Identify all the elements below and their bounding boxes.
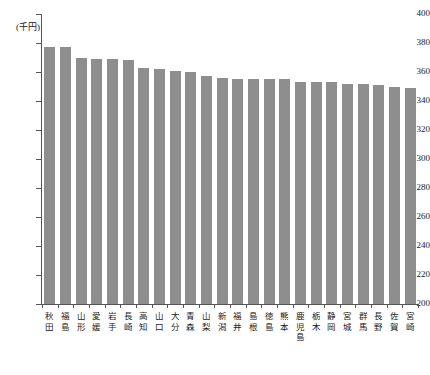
- bar: [279, 79, 290, 304]
- bar: [154, 69, 165, 304]
- y-tick-mark: [36, 130, 41, 131]
- y-tick-mark: [36, 72, 41, 73]
- x-category-label: 宮城: [340, 311, 356, 332]
- bar: [201, 76, 212, 304]
- x-category-label: 福島: [58, 311, 74, 332]
- bar-slot: [120, 14, 136, 304]
- y-tick-mark: [36, 246, 41, 247]
- x-tick-mark: [58, 304, 59, 308]
- x-category-label: 長野: [371, 311, 387, 332]
- y-tick-mark: [36, 275, 41, 276]
- bar-slot: [136, 14, 152, 304]
- x-tick-mark: [136, 304, 137, 308]
- bar-slot: [371, 14, 387, 304]
- x-category-label: 岩手: [105, 311, 121, 332]
- y-tick-mark: [36, 304, 41, 305]
- x-category-label: 鹿児島: [293, 311, 309, 343]
- x-tick-mark: [167, 304, 168, 308]
- bar: [248, 79, 259, 304]
- x-tick-mark: [418, 304, 419, 308]
- bar-slot: [183, 14, 199, 304]
- bar: [232, 79, 243, 304]
- x-category-label: 山梨: [199, 311, 215, 332]
- bar: [138, 68, 149, 304]
- bar: [185, 72, 196, 304]
- x-category-label: 群馬: [355, 311, 371, 332]
- x-tick-mark: [89, 304, 90, 308]
- bar-slot: [89, 14, 105, 304]
- x-tick-mark: [246, 304, 247, 308]
- x-category-label: 大分: [167, 311, 183, 332]
- y-tick-mark: [36, 14, 41, 15]
- x-tick-mark: [230, 304, 231, 308]
- bar: [311, 82, 322, 304]
- bar: [44, 47, 55, 304]
- bar-chart: (千円) 400380360340320300280260240220200 秋…: [0, 0, 430, 375]
- x-tick-mark: [73, 304, 74, 308]
- bar-slot: [214, 14, 230, 304]
- y-tick-mark: [36, 188, 41, 189]
- bar: [326, 82, 337, 304]
- bar-slot: [387, 14, 403, 304]
- x-category-label: 佐賀: [387, 311, 403, 332]
- x-tick-mark: [152, 304, 153, 308]
- x-category-label: 徳島: [261, 311, 277, 332]
- bar: [107, 59, 118, 304]
- bar: [264, 79, 275, 304]
- x-tick-mark: [183, 304, 184, 308]
- bar: [123, 60, 134, 304]
- bar-slot: [152, 14, 168, 304]
- x-category-label: 山形: [73, 311, 89, 332]
- y-tick-mark: [36, 43, 41, 44]
- bar-slot: [293, 14, 309, 304]
- x-category-label: 熊本: [277, 311, 293, 332]
- x-tick-mark: [308, 304, 309, 308]
- y-tick-mark: [36, 101, 41, 102]
- x-category-label: 宮崎: [402, 311, 418, 332]
- y-tick-mark: [36, 159, 41, 160]
- x-category-label: 福井: [230, 311, 246, 332]
- bar: [60, 47, 71, 304]
- bar: [389, 87, 400, 305]
- bar-slot: [402, 14, 418, 304]
- bar: [358, 84, 369, 304]
- x-category-label: 新潟: [214, 311, 230, 332]
- y-axis-unit-label: (千円): [2, 22, 40, 32]
- y-tick-mark: [36, 217, 41, 218]
- bar-slot: [105, 14, 121, 304]
- x-category-label: 高知: [136, 311, 152, 332]
- plot-area: [42, 14, 418, 304]
- bar: [217, 78, 228, 304]
- bar-slot: [42, 14, 58, 304]
- bar-slot: [277, 14, 293, 304]
- bar: [405, 88, 416, 304]
- bar: [76, 58, 87, 305]
- bar: [342, 84, 353, 304]
- x-tick-mark: [355, 304, 356, 308]
- bar-slot: [58, 14, 74, 304]
- x-tick-mark: [340, 304, 341, 308]
- x-tick-mark: [387, 304, 388, 308]
- bar-slot: [308, 14, 324, 304]
- x-tick-mark: [402, 304, 403, 308]
- x-tick-mark: [120, 304, 121, 308]
- x-category-label: 青森: [183, 311, 199, 332]
- bar-slot: [246, 14, 262, 304]
- bar: [91, 59, 102, 304]
- x-category-label: 長崎: [120, 311, 136, 332]
- bar-slot: [340, 14, 356, 304]
- bar: [295, 82, 306, 304]
- x-tick-mark: [105, 304, 106, 308]
- bar: [373, 85, 384, 304]
- x-tick-mark: [214, 304, 215, 308]
- x-category-label: 島根: [246, 311, 262, 332]
- x-category-label: 愛媛: [89, 311, 105, 332]
- x-tick-mark: [199, 304, 200, 308]
- bar: [170, 71, 181, 304]
- x-category-label: 秋田: [42, 311, 58, 332]
- x-tick-mark: [293, 304, 294, 308]
- bar-slot: [167, 14, 183, 304]
- x-tick-mark: [324, 304, 325, 308]
- x-tick-mark: [277, 304, 278, 308]
- x-tick-mark: [371, 304, 372, 308]
